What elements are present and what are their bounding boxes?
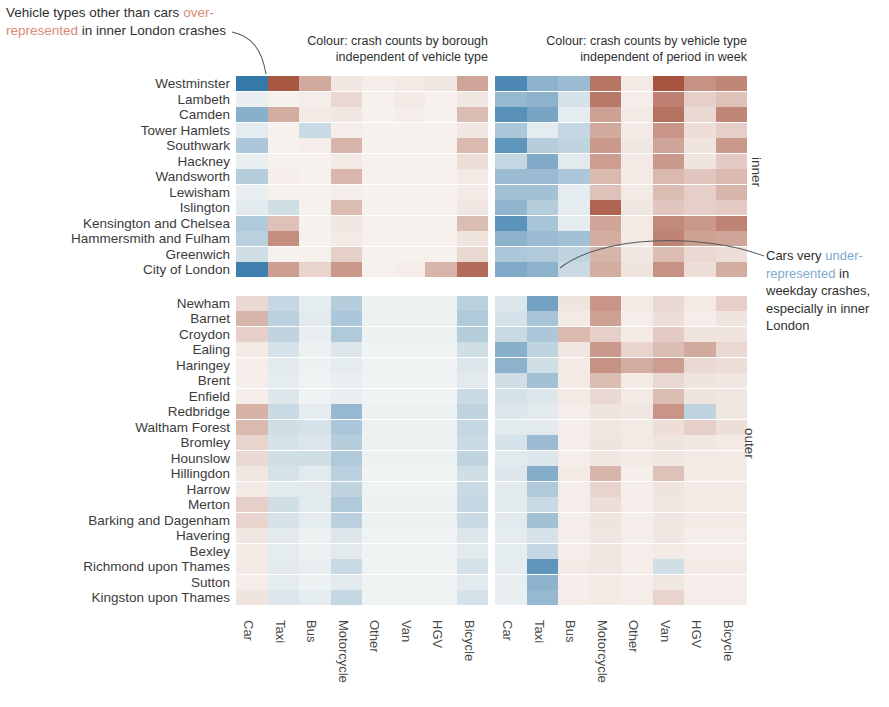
heatmap-cell[interactable] — [527, 528, 559, 543]
heatmap-cell[interactable] — [716, 200, 748, 215]
heatmap-cell[interactable] — [394, 154, 426, 169]
heatmap-cell[interactable] — [268, 342, 300, 357]
heatmap-cell[interactable] — [653, 231, 685, 246]
heatmap-cell[interactable] — [684, 590, 716, 605]
heatmap-cell[interactable] — [425, 262, 457, 277]
heatmap-cell[interactable] — [299, 311, 331, 326]
heatmap-cell[interactable] — [457, 389, 489, 404]
heatmap-cell[interactable] — [653, 559, 685, 574]
heatmap-cell[interactable] — [590, 513, 622, 528]
heatmap-cell[interactable] — [331, 513, 363, 528]
heatmap-cell[interactable] — [716, 123, 748, 138]
heatmap-cell[interactable] — [653, 342, 685, 357]
heatmap-cell[interactable] — [425, 154, 457, 169]
heatmap-cell[interactable] — [495, 107, 527, 122]
heatmap-cell[interactable] — [394, 389, 426, 404]
heatmap-cell[interactable] — [394, 451, 426, 466]
heatmap-cell[interactable] — [362, 311, 394, 326]
heatmap-cell[interactable] — [621, 296, 653, 311]
heatmap-cell[interactable] — [495, 247, 527, 262]
heatmap-cell[interactable] — [362, 200, 394, 215]
heatmap-cell[interactable] — [590, 327, 622, 342]
heatmap-cell[interactable] — [268, 296, 300, 311]
heatmap-cell[interactable] — [621, 575, 653, 590]
heatmap-cell[interactable] — [394, 513, 426, 528]
heatmap-cell[interactable] — [653, 154, 685, 169]
heatmap-cell[interactable] — [558, 231, 590, 246]
heatmap-cell[interactable] — [495, 559, 527, 574]
heatmap-cell[interactable] — [362, 497, 394, 512]
heatmap-cell[interactable] — [362, 420, 394, 435]
heatmap-cell[interactable] — [425, 216, 457, 231]
heatmap-cell[interactable] — [457, 404, 489, 419]
heatmap-cell[interactable] — [331, 327, 363, 342]
heatmap-cell[interactable] — [558, 169, 590, 184]
heatmap-cell[interactable] — [495, 231, 527, 246]
heatmap-cell[interactable] — [716, 262, 748, 277]
heatmap-cell[interactable] — [457, 590, 489, 605]
heatmap-cell[interactable] — [394, 138, 426, 153]
heatmap-cell[interactable] — [684, 216, 716, 231]
heatmap-cell[interactable] — [590, 497, 622, 512]
heatmap-cell[interactable] — [684, 497, 716, 512]
heatmap-cell[interactable] — [299, 169, 331, 184]
heatmap-cell[interactable] — [394, 123, 426, 138]
heatmap-cell[interactable] — [558, 559, 590, 574]
heatmap-cell[interactable] — [425, 296, 457, 311]
heatmap-cell[interactable] — [684, 327, 716, 342]
heatmap-cell[interactable] — [621, 559, 653, 574]
heatmap-cell[interactable] — [394, 342, 426, 357]
heatmap-cell[interactable] — [495, 92, 527, 107]
heatmap-cell[interactable] — [621, 513, 653, 528]
heatmap-cell[interactable] — [268, 559, 300, 574]
heatmap-cell[interactable] — [684, 373, 716, 388]
heatmap-cell[interactable] — [590, 138, 622, 153]
heatmap-cell[interactable] — [621, 154, 653, 169]
heatmap-cell[interactable] — [558, 92, 590, 107]
heatmap-cell[interactable] — [394, 296, 426, 311]
heatmap-cell[interactable] — [268, 466, 300, 481]
heatmap-cell[interactable] — [362, 327, 394, 342]
heatmap-cell[interactable] — [299, 513, 331, 528]
heatmap-cell[interactable] — [590, 216, 622, 231]
heatmap-cell[interactable] — [425, 420, 457, 435]
heatmap-cell[interactable] — [299, 420, 331, 435]
heatmap-cell[interactable] — [362, 575, 394, 590]
heatmap-cell[interactable] — [653, 138, 685, 153]
heatmap-cell[interactable] — [394, 311, 426, 326]
heatmap-cell[interactable] — [394, 373, 426, 388]
heatmap-cell[interactable] — [621, 389, 653, 404]
heatmap-cell[interactable] — [495, 138, 527, 153]
heatmap-cell[interactable] — [457, 528, 489, 543]
heatmap-cell[interactable] — [684, 138, 716, 153]
heatmap-cell[interactable] — [716, 575, 748, 590]
heatmap-cell[interactable] — [394, 528, 426, 543]
heatmap-cell[interactable] — [716, 216, 748, 231]
heatmap-cell[interactable] — [268, 373, 300, 388]
heatmap-cell[interactable] — [236, 123, 268, 138]
heatmap-cell[interactable] — [684, 154, 716, 169]
heatmap-cell[interactable] — [621, 123, 653, 138]
heatmap-cell[interactable] — [268, 76, 300, 91]
heatmap-cell[interactable] — [331, 544, 363, 559]
heatmap-cell[interactable] — [268, 138, 300, 153]
heatmap-cell[interactable] — [362, 404, 394, 419]
heatmap-cell[interactable] — [299, 358, 331, 373]
heatmap-cell[interactable] — [495, 311, 527, 326]
heatmap-cell[interactable] — [621, 247, 653, 262]
heatmap-cell[interactable] — [558, 123, 590, 138]
heatmap-cell[interactable] — [527, 420, 559, 435]
heatmap-cell[interactable] — [558, 107, 590, 122]
heatmap-cell[interactable] — [716, 247, 748, 262]
heatmap-cell[interactable] — [716, 107, 748, 122]
heatmap-cell[interactable] — [684, 311, 716, 326]
heatmap-cell[interactable] — [621, 200, 653, 215]
heatmap-cell[interactable] — [684, 342, 716, 357]
heatmap-cell[interactable] — [621, 216, 653, 231]
heatmap-cell[interactable] — [425, 404, 457, 419]
heatmap-cell[interactable] — [268, 389, 300, 404]
heatmap-cell[interactable] — [362, 296, 394, 311]
heatmap-cell[interactable] — [362, 107, 394, 122]
heatmap-cell[interactable] — [527, 373, 559, 388]
heatmap-cell[interactable] — [331, 247, 363, 262]
